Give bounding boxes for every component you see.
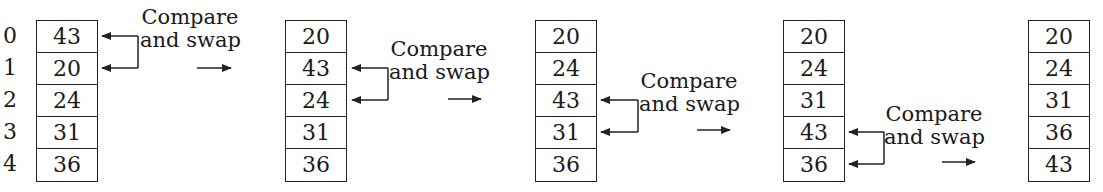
swap-arrows — [0, 0, 1103, 192]
swap-bracket-icon — [849, 132, 975, 164]
swap-bracket-icon — [601, 100, 730, 132]
swap-bracket-icon — [102, 36, 231, 68]
swap-bracket-icon — [352, 68, 481, 100]
